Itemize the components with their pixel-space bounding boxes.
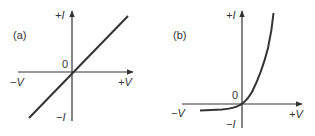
panel-b-neg-v-label: −V	[171, 107, 186, 119]
panel-a: (a) 0 +I −I +V −V	[10, 9, 133, 123]
panel-b-label: (b)	[173, 29, 186, 41]
panel-a-origin-label: 0	[62, 58, 68, 70]
panel-a-neg-i-label: −I	[56, 111, 65, 123]
panel-a-neg-v-label: −V	[10, 76, 25, 88]
panel-a-pos-v-label: +V	[118, 76, 133, 88]
panel-b: (b) 0 +I −I +V −V	[171, 9, 304, 130]
panel-a-pos-i-label: +I	[55, 9, 64, 21]
panel-a-label: (a)	[13, 29, 26, 41]
panel-b-origin-label: 0	[232, 89, 238, 101]
panel-a-linear-curve	[29, 16, 128, 118]
panel-b-neg-i-label: −I	[226, 118, 235, 130]
iv-characteristics-figure: (a) 0 +I −I +V −V (b) 0 +I −I +V −V	[0, 0, 315, 136]
panel-b-pos-i-label: +I	[226, 9, 235, 21]
panel-b-pos-v-label: +V	[289, 108, 304, 120]
